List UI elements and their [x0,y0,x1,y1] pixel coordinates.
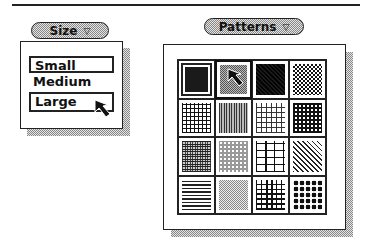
pattern-gray-50[interactable] [215,60,252,99]
pattern-swatch [293,141,322,172]
pattern-grid-lines[interactable] [252,176,289,215]
pattern-dense-black-lattice[interactable] [289,99,326,138]
size-option-medium[interactable]: Medium [29,74,114,91]
pattern-open-square-lattice[interactable] [252,99,289,138]
pattern-swatch [219,180,248,211]
pattern-swatch [182,141,211,172]
pattern-swatch [182,103,211,134]
patterns-menu [163,44,346,230]
arrow-cursor-icon [226,67,248,89]
pattern-swatch [256,141,285,172]
pattern-swatch [256,180,285,211]
pattern-swatch [293,103,322,134]
pattern-swatch [219,141,248,172]
pattern-fine-grid-dense[interactable] [178,137,215,176]
size-popup-label: Size [50,24,78,38]
pattern-grid [177,59,327,215]
chevron-down-icon: ▽ [282,22,289,32]
size-popup-button[interactable]: Size ▽ [31,22,109,39]
pattern-swatch [219,103,248,134]
menu-bar-divider [12,4,360,6]
pattern-swatch [182,180,211,211]
pattern-hexagon-dots[interactable] [215,137,252,176]
pattern-swatch [256,103,285,134]
patterns-popup-button[interactable]: Patterns ▽ [204,18,304,35]
size-menu: Small Medium Large [20,41,123,129]
pattern-solid-black[interactable] [178,60,215,99]
pattern-swatch [293,64,322,95]
pattern-swatch [256,64,285,95]
pattern-swatch [293,180,322,211]
pattern-fine-checker[interactable] [289,60,326,99]
pattern-brick[interactable] [252,137,289,176]
pattern-vertical-lines[interactable] [215,99,252,138]
chevron-down-icon: ▽ [83,26,90,36]
size-option-small[interactable]: Small [29,56,114,73]
pattern-dense-diagonal-check[interactable] [252,60,289,99]
pattern-stipple-light[interactable] [215,176,252,215]
pattern-horizontal-lines[interactable] [178,176,215,215]
pattern-large-dots[interactable] [289,176,326,215]
pattern-cross-hatch-plus[interactable] [178,99,215,138]
arrow-cursor-icon [93,98,115,120]
patterns-popup-label: Patterns [219,20,277,34]
pattern-diagonal-lines[interactable] [289,137,326,176]
pattern-swatch [185,67,208,92]
